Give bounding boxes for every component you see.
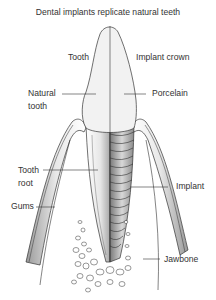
- label-jawbone: Jawbone: [164, 253, 198, 266]
- label-implant: Implant: [176, 180, 204, 193]
- tooth-crown: [82, 27, 136, 133]
- implant-screw: [110, 126, 134, 262]
- label-porcelain: Porcelain: [152, 87, 188, 100]
- label-tooth-root-line1: Tooth: [18, 164, 39, 177]
- label-implant-crown: Implant crown: [136, 51, 190, 64]
- natural-tooth-root: [86, 126, 110, 262]
- label-tooth-root-line2: root: [18, 177, 33, 190]
- label-natural-tooth-line2: tooth: [28, 100, 47, 113]
- gum-left: [26, 119, 86, 285]
- label-natural-tooth-line1: Natural: [28, 87, 56, 100]
- label-gums: Gums: [11, 200, 34, 213]
- label-tooth: Tooth: [68, 51, 89, 64]
